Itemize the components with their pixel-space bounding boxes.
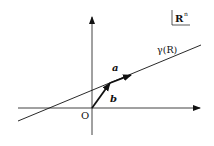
vector-a — [110, 75, 131, 83]
vector-a-label: a — [112, 62, 118, 73]
space-superscript: n — [184, 10, 188, 17]
vector-b-label: b — [110, 93, 117, 104]
diagram-canvas: R n γ(R) a b O — [0, 0, 214, 146]
origin-label: O — [81, 110, 89, 121]
curve-label: γ(R) — [157, 44, 177, 55]
space-label-box: R n — [172, 10, 190, 25]
space-label: R — [175, 13, 184, 24]
